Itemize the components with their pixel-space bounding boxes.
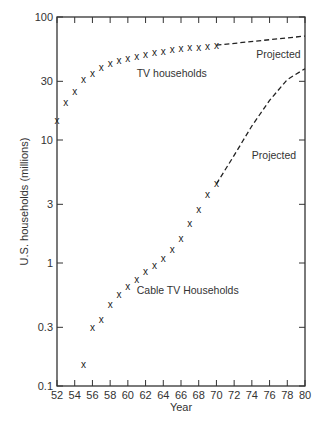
- annotation-label: Cable TV Households: [137, 284, 239, 296]
- data-point-x-marker: x: [117, 289, 122, 300]
- annotation-label: Projected: [252, 149, 297, 161]
- data-point-x-marker: x: [196, 42, 201, 53]
- data-point-x-marker: x: [125, 53, 130, 64]
- projection-dashed-line: [216, 69, 305, 184]
- data-point-x-marker: x: [205, 189, 210, 200]
- data-point-x-marker: x: [108, 299, 113, 310]
- data-point-x-marker: x: [187, 218, 192, 229]
- data-point-x-marker: x: [170, 244, 175, 255]
- annotation-label: Projected: [256, 48, 301, 60]
- y-axis-label: U.S. households (millions): [18, 138, 30, 266]
- annotation-label: TV households: [137, 67, 207, 79]
- y-tick-label: 1: [47, 257, 53, 269]
- x-tick-label: 60: [122, 389, 134, 401]
- data-point-x-marker: x: [81, 359, 86, 370]
- data-point-x-marker: x: [72, 86, 77, 97]
- data-point-x-marker: x: [152, 260, 157, 271]
- y-tick-label: 3: [47, 198, 53, 210]
- data-point-x-marker: x: [108, 58, 113, 69]
- y-tick-label: 0.1: [38, 380, 53, 392]
- x-tick-label: 80: [299, 389, 311, 401]
- x-tick-label: 56: [86, 389, 98, 401]
- y-tick-label: 30: [41, 75, 53, 87]
- x-tick-label: 58: [104, 389, 116, 401]
- data-point-x-marker: x: [117, 55, 122, 66]
- data-point-x-marker: x: [99, 62, 104, 73]
- x-tick-label: 54: [69, 389, 81, 401]
- y-tick-label: 100: [35, 11, 53, 23]
- data-point-x-marker: x: [161, 253, 166, 264]
- data-point-x-marker: x: [134, 51, 139, 62]
- x-tick-label: 70: [210, 389, 222, 401]
- data-point-x-marker: x: [179, 233, 184, 244]
- line-chart: 5254565860626466687072747678800.10.31310…: [0, 0, 319, 422]
- x-tick-label: 62: [139, 389, 151, 401]
- data-point-x-marker: x: [143, 266, 148, 277]
- data-point-x-marker: x: [170, 44, 175, 55]
- projection-dashed-line: [216, 36, 305, 45]
- x-tick-label: 78: [281, 389, 293, 401]
- data-point-x-marker: x: [205, 41, 210, 52]
- data-point-x-marker: x: [196, 204, 201, 215]
- data-point-x-marker: x: [152, 47, 157, 58]
- data-point-x-marker: x: [179, 43, 184, 54]
- x-tick-label: 72: [228, 389, 240, 401]
- data-point-x-marker: x: [90, 322, 95, 333]
- x-tick-label: 68: [193, 389, 205, 401]
- y-tick-label: 0.3: [38, 321, 53, 333]
- data-point-x-marker: x: [63, 97, 68, 108]
- data-point-x-marker: x: [125, 281, 130, 292]
- y-tick-label: 10: [41, 134, 53, 146]
- x-tick-label: 76: [263, 389, 275, 401]
- x-tick-label: 74: [246, 389, 258, 401]
- data-point-x-marker: x: [99, 314, 104, 325]
- data-point-x-marker: x: [134, 274, 139, 285]
- data-point-x-marker: x: [81, 74, 86, 85]
- data-point-x-marker: x: [187, 42, 192, 53]
- x-tick-label: 64: [157, 389, 169, 401]
- x-axis-label: Year: [170, 401, 193, 413]
- data-point-x-marker: x: [161, 46, 166, 57]
- data-point-x-marker: x: [143, 49, 148, 60]
- x-tick-label: 66: [175, 389, 187, 401]
- data-point-x-marker: x: [55, 115, 60, 126]
- data-point-x-marker: x: [90, 68, 95, 79]
